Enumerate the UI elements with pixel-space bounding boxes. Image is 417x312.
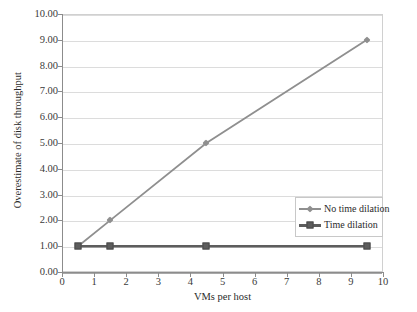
legend-entry-no-time-dilation[interactable]: No time dilation bbox=[299, 201, 380, 217]
x-axis-title: VMs per host bbox=[62, 292, 383, 303]
legend-label-no-time-dilation: No time dilation bbox=[324, 204, 390, 214]
square-marker-icon bbox=[307, 222, 314, 229]
legend-key-time-dilation bbox=[299, 219, 321, 231]
y-axis-title: Overestimate of disk throughput bbox=[13, 11, 24, 269]
chart-figure: 0.001.002.003.004.005.006.007.008.009.00… bbox=[0, 0, 417, 312]
legend-key-no-time-dilation bbox=[299, 203, 321, 215]
legend-entry-time-dilation[interactable]: Time dilation bbox=[299, 217, 380, 233]
legend-label-time-dilation: Time dilation bbox=[324, 220, 378, 230]
diamond-marker-icon bbox=[306, 205, 313, 212]
chart-legend: No time dilation Time dilation bbox=[295, 197, 383, 237]
series-lines bbox=[0, 0, 417, 312]
